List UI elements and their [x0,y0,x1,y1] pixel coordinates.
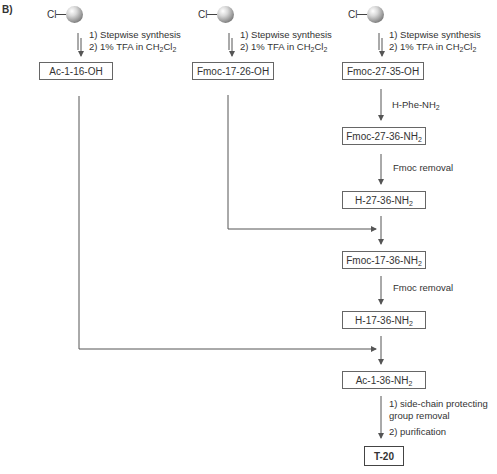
resin-bead-icon [367,6,384,23]
chlorine-label: Cl [198,9,207,20]
resin-bead-icon [66,6,83,23]
intermediate-box-h-27-36: H-27-36-NH2 [342,191,426,209]
intermediate-box-ac-1-36: Ac-1-36-NH2 [342,371,426,389]
fragment-box-ac-1-16: Ac-1-16-OH [39,62,113,80]
step-note-3: 1) Stepwise synthesis 2) 1% TFA in CH2Cl… [389,29,481,53]
chlorine-label: Cl [348,9,357,20]
final-product-t20: T-20 [364,446,404,466]
bond-line [207,14,217,15]
intermediate-box-fmoc-27-36: Fmoc-27-36-NH2 [342,127,426,145]
final-steps-note: 1) side-chain protecting group removal 2… [389,398,488,438]
final-step-1a: 1) side-chain protecting [389,398,488,410]
fragment-box-fmoc-17-26: Fmoc-17-26-OH [192,62,274,80]
step-note-1: 1) Stepwise synthesis 2) 1% TFA in CH2Cl… [89,29,181,53]
step-stepwise: 1) Stepwise synthesis [240,29,332,41]
step-note-2: 1) Stepwise synthesis 2) 1% TFA in CH2Cl… [240,29,332,53]
reagent-h-phe-nh2: H-Phe-NH2 [392,99,440,111]
step-tfa: 2) 1% TFA in CH2Cl2 [389,41,481,53]
intermediate-box-h-17-36: H-17-36-NH2 [342,311,426,329]
panel-label: B) [2,4,13,15]
reagent-fmoc-removal-1: Fmoc removal [393,162,453,174]
bond-line [357,14,367,15]
reagent-fmoc-removal-2: Fmoc removal [393,282,453,294]
step-tfa: 2) 1% TFA in CH2Cl2 [240,41,332,53]
resin-3: Cl [348,6,384,23]
resin-2: Cl [198,6,234,23]
final-step-2: 2) purification [389,426,488,438]
bond-line [56,14,66,15]
resin-1: Cl [47,6,83,23]
final-step-1b: group removal [389,410,488,422]
fragment-box-fmoc-27-35: Fmoc-27-35-OH [342,62,424,80]
chlorine-label: Cl [47,9,56,20]
step-stepwise: 1) Stepwise synthesis [89,29,181,41]
step-stepwise: 1) Stepwise synthesis [389,29,481,41]
step-tfa: 2) 1% TFA in CH2Cl2 [89,41,181,53]
resin-bead-icon [217,6,234,23]
intermediate-box-fmoc-17-36: Fmoc-17-36-NH2 [342,251,426,269]
